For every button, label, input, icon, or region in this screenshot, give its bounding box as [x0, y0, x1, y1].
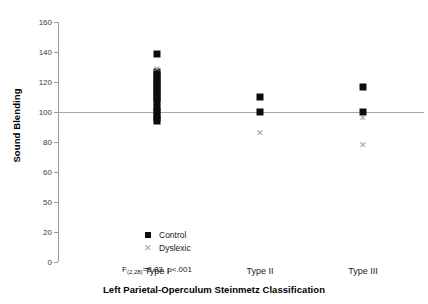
reference-line-100: [58, 112, 424, 113]
legend: Control ✕ Dyslexic: [142, 228, 191, 254]
y-axis-label: Sound Blending: [4, 0, 28, 250]
legend-label-control: Control: [159, 230, 186, 240]
y-tick-label: 120: [39, 78, 52, 87]
dyslexic-data-point: ✕: [359, 141, 368, 150]
x-category-type-iii: Type III: [348, 266, 378, 276]
stats-value: =8.83, p<.001: [143, 265, 192, 274]
stats-df: (2,28): [127, 269, 143, 275]
control-data-point: [360, 83, 367, 90]
y-tick-label: 140: [39, 48, 52, 57]
y-tick-mark: [54, 262, 58, 263]
y-tick-label: 80: [43, 138, 52, 147]
y-tick-mark: [54, 52, 58, 53]
y-tick-label: 100: [39, 108, 52, 117]
control-data-point: [154, 50, 161, 57]
square-marker-icon: [142, 230, 154, 240]
y-tick-mark: [54, 232, 58, 233]
x-marker-icon: ✕: [142, 242, 154, 252]
y-tick-label: 50: [43, 198, 52, 207]
y-tick-mark: [54, 172, 58, 173]
y-tick-label: 160: [39, 18, 52, 27]
y-axis-label-text: Sound Blending: [11, 88, 22, 162]
plot-area: 020506080100120140160 ✕✕✕✕ Type IType II…: [58, 22, 424, 262]
legend-label-dyslexic: Dyslexic: [159, 243, 191, 253]
y-tick-mark: [54, 82, 58, 83]
y-tick-mark: [54, 202, 58, 203]
y-axis-spine: [58, 22, 59, 262]
y-tick-mark: [54, 142, 58, 143]
y-tick-label: 20: [43, 228, 52, 237]
legend-item-control: Control: [142, 228, 191, 241]
control-data-point: [154, 118, 161, 125]
dyslexic-data-point: ✕: [256, 129, 265, 138]
x-category-type-ii: Type II: [246, 266, 273, 276]
y-tick-label: 0: [48, 258, 52, 267]
y-tick-label: 60: [43, 168, 52, 177]
control-data-point: [257, 94, 264, 101]
dyslexic-data-point: ✕: [153, 64, 162, 73]
scatter-plot-figure: Sound Blending 020506080100120140160 ✕✕✕…: [0, 0, 428, 304]
y-tick-mark: [54, 22, 58, 23]
legend-item-dyslexic: ✕ Dyslexic: [142, 241, 191, 254]
control-data-point: [257, 109, 264, 116]
dyslexic-data-point: ✕: [359, 114, 368, 123]
x-axis-label: Left Parietal-Operculum Steinmetz Classi…: [0, 284, 428, 295]
stats-annotation: F(2,28)=8.83, p<.001: [122, 265, 192, 274]
